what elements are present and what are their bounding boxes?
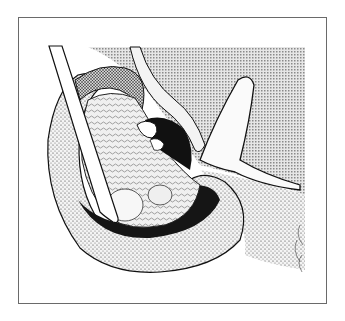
- tissue-lobe: [148, 185, 172, 205]
- anatomical-illustration: [0, 0, 345, 321]
